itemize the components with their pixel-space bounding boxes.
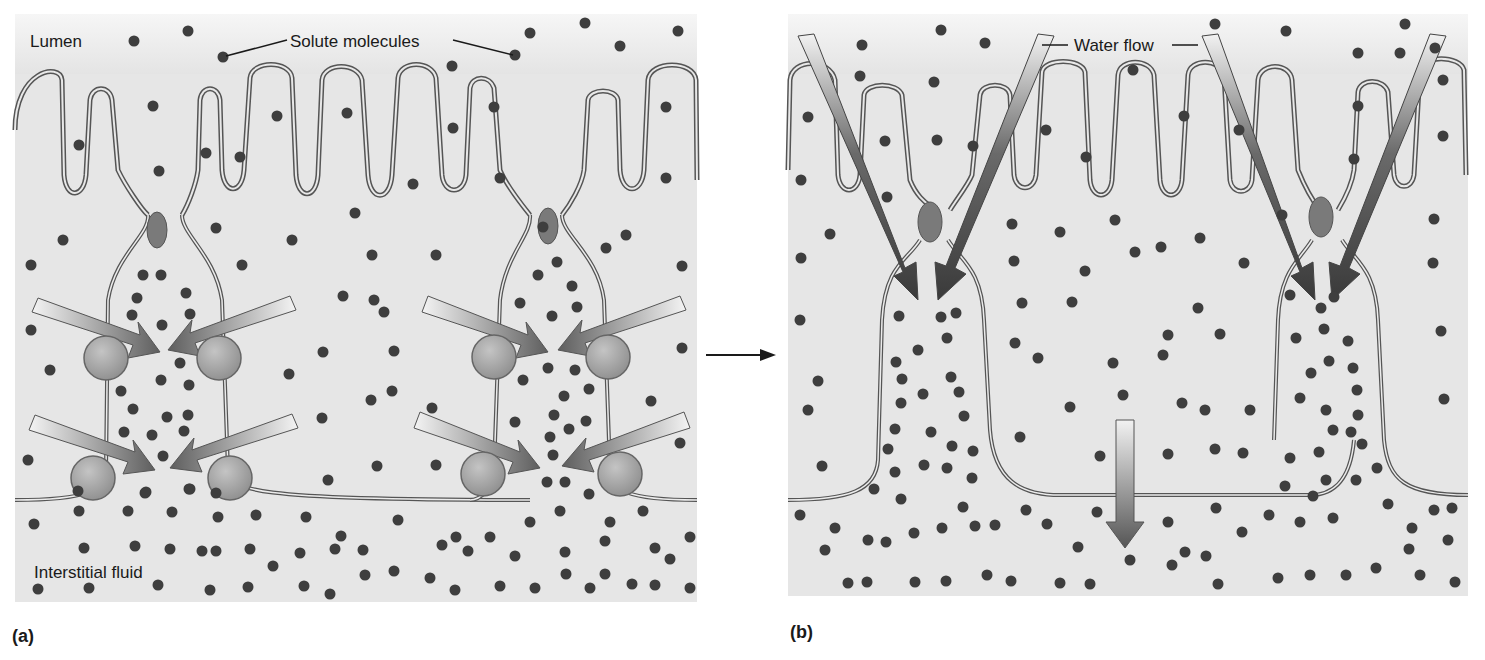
tight-junction-icon: [1309, 197, 1333, 237]
pump-icon: [472, 335, 516, 379]
lumen-label: Lumen: [30, 32, 82, 51]
tight-junction-icon: [147, 212, 167, 248]
pump-icon: [598, 452, 642, 496]
panel-a-background: [15, 14, 697, 602]
tight-junction-icon: [918, 202, 942, 242]
interstitial-fluid-label: Interstitial fluid: [34, 563, 143, 582]
solute-molecules-label: Solute molecules: [290, 32, 419, 51]
pump-icon: [461, 452, 505, 496]
panel-a-letter: (a): [12, 626, 34, 646]
panel-a: Lumen Solute molecules Interstitial flui…: [0, 0, 700, 660]
panel-b-diagram: Water flow (b): [780, 0, 1485, 660]
pump-icon: [84, 336, 128, 380]
panel-a-diagram: Lumen Solute molecules Interstitial flui…: [0, 0, 700, 660]
transition-arrow-icon: [700, 340, 780, 370]
panel-b-letter: (b): [790, 622, 813, 642]
pump-icon: [197, 336, 241, 380]
panel-b: Water flow (b): [780, 0, 1485, 660]
pump-icon: [586, 335, 630, 379]
water-flow-label: Water flow: [1074, 36, 1154, 55]
